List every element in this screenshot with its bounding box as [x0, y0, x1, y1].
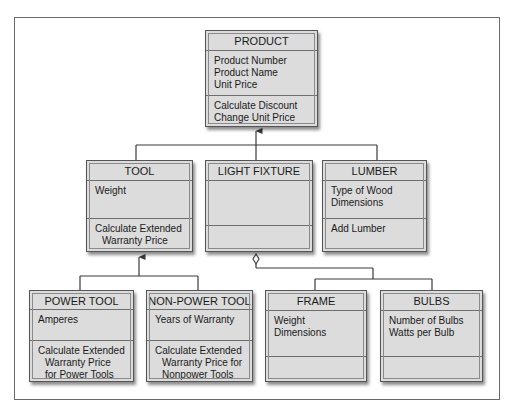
class-name: NON-POWER TOOL [147, 291, 252, 310]
class-name: LIGHT FIXTURE [206, 161, 312, 181]
aggregation-diamond-icon [253, 254, 259, 264]
light-fixture-aggregation-connector [253, 254, 432, 290]
attribute: Dimensions [274, 327, 358, 339]
method: Warranty Price for [155, 357, 244, 369]
class-power-tool: POWER TOOL Amperes Calculate Extended Wa… [29, 290, 134, 382]
class-name: PRODUCT [206, 31, 317, 51]
attribute: Number of Bulbs [389, 315, 474, 327]
tool-generalization-connector [80, 257, 198, 290]
method: Change Unit Price [214, 112, 309, 124]
class-name: TOOL [87, 161, 192, 181]
class-attributes: Product Number Product Name Unit Price [206, 51, 317, 96]
attribute: Watts per Bulb [389, 327, 474, 339]
class-methods: Add Lumber [323, 219, 426, 251]
class-methods: Calculate Extended Warranty Price for Po… [30, 341, 133, 381]
class-attributes [206, 181, 312, 226]
class-name: FRAME [266, 291, 366, 311]
class-attributes: Type of Wood Dimensions [323, 181, 426, 219]
method: Calculate Extended [155, 345, 244, 357]
method: Nonpower Tools [155, 369, 244, 381]
class-non-power-tool: NON-POWER TOOL Years of Warranty Calcula… [146, 290, 253, 382]
class-attributes: Number of Bulbs Watts per Bulb [381, 311, 482, 357]
attribute: Years of Warranty [155, 314, 244, 326]
class-attributes: Amperes [30, 310, 133, 341]
method: Calculate Extended [95, 223, 184, 235]
class-name: POWER TOOL [30, 291, 133, 310]
class-attributes: Weight Dimensions [266, 311, 366, 357]
class-frame: FRAME Weight Dimensions [265, 290, 367, 382]
method: Warranty Price [95, 235, 184, 247]
method: for Power Tools [38, 369, 125, 381]
attribute: Type of Wood [331, 185, 418, 197]
attribute: Product Number [214, 55, 309, 67]
attribute: Weight [274, 315, 358, 327]
class-attributes: Years of Warranty [147, 310, 252, 341]
attribute: Weight [95, 185, 184, 197]
class-methods [266, 357, 366, 381]
method: Calculate Extended [38, 345, 125, 357]
class-bulbs: BULBS Number of Bulbs Watts per Bulb [380, 290, 483, 382]
class-name: BULBS [381, 291, 482, 311]
attribute: Amperes [38, 314, 125, 326]
class-methods [206, 226, 312, 251]
class-tool: TOOL Weight Calculate Extended Warranty … [86, 160, 193, 252]
method: Calculate Discount [214, 100, 309, 112]
product-generalization-connector [136, 131, 377, 160]
class-methods [381, 357, 482, 381]
method: Warranty Price [38, 357, 125, 369]
class-light-fixture: LIGHT FIXTURE [205, 160, 313, 252]
class-lumber: LUMBER Type of Wood Dimensions Add Lumbe… [322, 160, 427, 252]
class-methods: Calculate Extended Warranty Price for No… [147, 341, 252, 381]
attribute: Unit Price [214, 79, 309, 91]
attribute: Dimensions [331, 197, 418, 209]
class-name: LUMBER [323, 161, 426, 181]
class-product: PRODUCT Product Number Product Name Unit… [205, 30, 318, 127]
method: Add Lumber [331, 223, 418, 235]
class-attributes: Weight [87, 181, 192, 219]
class-methods: Calculate Discount Change Unit Price [206, 96, 317, 126]
class-methods: Calculate Extended Warranty Price [87, 219, 192, 251]
attribute: Product Name [214, 67, 309, 79]
